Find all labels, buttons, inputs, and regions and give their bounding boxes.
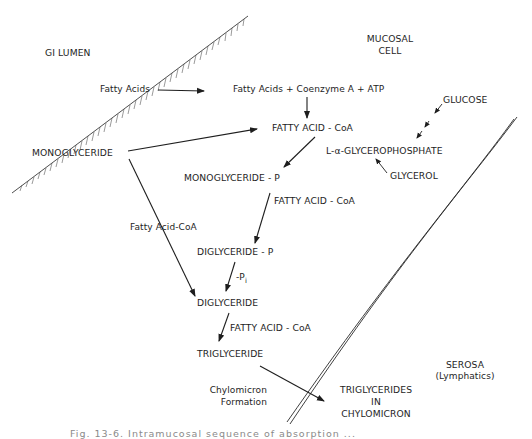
figure-caption: Fig. 13-6. Intramucosal sequence of abso…	[70, 428, 356, 439]
arrow-diglyceride-to-triglyceride	[219, 313, 229, 341]
arrow-glucose-2	[425, 121, 429, 127]
region-label-mucosal: MUCOSAL	[360, 34, 420, 43]
node-fatty-acid-coa-3: FATTY ACID - CoA	[230, 323, 311, 332]
reaction-arrows	[128, 90, 442, 401]
node-fatty-acid-coa-2: FATTY ACID - CoA	[274, 196, 355, 205]
chylomicron-line-2: IN	[328, 397, 424, 406]
node-glucose: GLUCOSE	[443, 95, 488, 104]
region-label-gi-lumen: GI LUMEN	[45, 48, 91, 57]
arrow-monoglyceride-to-fa-coa	[128, 129, 257, 151]
arrow-monoglyceride-p-to-diglyceride-p	[255, 193, 270, 243]
region-label-mucosal-cell: MUCOSAL CELL	[360, 34, 420, 55]
node-triglycerides-in-chylomicron: TRIGLYCERIDES IN CHYLOMICRON	[328, 385, 424, 419]
node-diglyceride: DIGLYCERIDE	[197, 298, 258, 307]
node-minus-pi: -Pi	[236, 273, 247, 285]
chylomicron-line-1: TRIGLYCERIDES	[328, 385, 424, 394]
minus-pi-text: -P	[236, 272, 245, 282]
arrow-fatty-acids-uptake	[158, 90, 204, 91]
node-fatty-acid-coa-1: FATTY ACID - CoA	[272, 123, 353, 132]
arrow-glycerol	[376, 159, 387, 173]
node-fatty-acids-lumen: Fatty Acids	[100, 85, 150, 94]
node-glycerol: GLYCEROL	[390, 171, 438, 180]
node-triglyceride: TRIGLYCERIDE	[197, 349, 263, 358]
arrow-glucose-1	[435, 104, 442, 113]
arrow-diglyceride-p-to-diglyceride	[226, 262, 235, 291]
node-monoglyceride-lumen: MONOGLYCERIDE	[32, 148, 113, 157]
region-label-serosa: SEROSA (Lymphatics)	[430, 360, 500, 381]
minus-pi-subscript: i	[245, 277, 247, 285]
region-label-cell: CELL	[360, 46, 420, 55]
chylomicron-formation-line-1: Chylomicron	[205, 386, 267, 395]
arrow-glucose-3	[417, 131, 422, 138]
node-activation: Fatty Acids + Coenzyme A + ATP	[233, 85, 384, 94]
chylomicron-line-3: CHYLOMICRON	[328, 409, 424, 418]
arrow-fa-coa-to-monoglyceride-p	[284, 137, 315, 167]
brush-border-membrane	[12, 16, 248, 193]
region-label-serosa-title: SEROSA	[430, 360, 500, 369]
node-monoglyceride-p: MONOGLYCERIDE - P	[184, 173, 280, 182]
node-diglyceride-p: DIGLYCERIDE - P	[197, 247, 273, 256]
node-fatty-acid-coa-side: Fatty Acid-CoA	[130, 223, 197, 232]
node-glycerophosphate: L-α-GLYCEROPHOSPHATE	[326, 146, 443, 155]
region-label-lymphatics: (Lymphatics)	[430, 372, 500, 381]
node-chylomicron-formation: Chylomicron Formation	[205, 386, 267, 407]
chylomicron-formation-line-2: Formation	[205, 398, 267, 407]
